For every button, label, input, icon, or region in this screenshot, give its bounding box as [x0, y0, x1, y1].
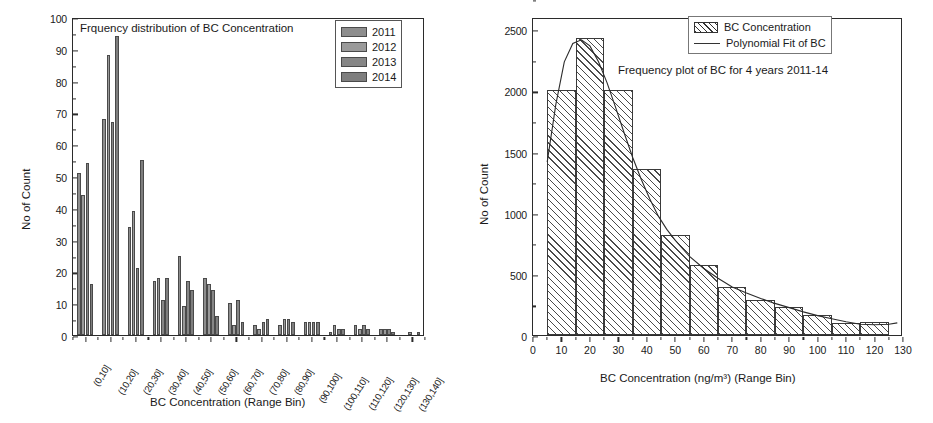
bar-2011: [178, 256, 182, 336]
x-tick-mark-minor: [324, 337, 325, 340]
x-tick-mark-minor: [248, 337, 249, 340]
bar-2014: [115, 36, 119, 335]
x-tick-mark: [789, 337, 790, 342]
bar-2014: [90, 284, 94, 335]
y-tick-label: 80: [56, 77, 73, 89]
y-tick-mark-minor: [73, 98, 76, 99]
bar-2013: [287, 319, 291, 335]
y-tick-mark-minor: [73, 162, 76, 163]
y-tick-label: 100: [50, 13, 73, 25]
x-tick-label: 10: [556, 344, 568, 356]
x-tick-mark-minor: [198, 337, 199, 340]
y-tick-label: 90: [56, 45, 73, 57]
legend-swatch-icon: [341, 27, 367, 37]
bar-2013: [236, 300, 240, 335]
x-tick-label: (60,70]: [241, 367, 265, 396]
x-tick-mark: [135, 337, 136, 342]
x-tick-mark: [311, 337, 312, 342]
legend-swatch-icon: [341, 42, 367, 52]
legend-item: Polynomial Fit of BC: [694, 35, 826, 51]
x-tick-mark: [561, 337, 562, 342]
x-tick-mark: [110, 337, 111, 342]
left-chart-panel: 0102030405060708090100(0,10](10,20](20,3…: [0, 0, 470, 423]
legend-swatch-icon: [341, 57, 367, 67]
y-tick-label: 30: [56, 236, 73, 248]
x-tick-label: (40,50]: [190, 367, 214, 396]
x-tick-label: 20: [584, 344, 596, 356]
x-tick-mark: [646, 337, 647, 342]
bar-2013: [161, 300, 165, 335]
bar-2014: [140, 160, 144, 335]
x-tick-mark-minor: [632, 337, 633, 340]
bar-2013: [387, 329, 391, 335]
x-tick-mark-minor: [803, 337, 804, 340]
y-tick-mark: [73, 82, 78, 83]
right-chart-panel: 0500100015002000250001020304050607080901…: [470, 0, 933, 423]
y-tick-label: 1500: [504, 148, 533, 160]
bar-2011: [128, 227, 132, 335]
y-tick-mark-minor: [73, 225, 76, 226]
x-tick-mark-minor: [123, 337, 124, 340]
right-chart-annotation: Frequency plot of BC for 4 years 2011-14: [618, 64, 828, 76]
x-tick-label: 90: [783, 344, 795, 356]
legend-label: 2011: [372, 26, 396, 38]
bar-2014: [341, 329, 345, 335]
left-chart-title: Frquency distribution of BC Concentratio…: [80, 22, 294, 34]
x-tick-label: 110: [838, 344, 855, 356]
x-tick-mark: [186, 337, 187, 342]
bar-2013: [86, 163, 90, 335]
bar-2012: [408, 332, 412, 335]
y-tick-mark: [73, 146, 78, 147]
x-tick-label: (130,140]: [416, 376, 445, 414]
y-tick-label: 500: [510, 270, 533, 282]
figure-container: 0102030405060708090100(0,10](10,20](20,3…: [0, 0, 933, 423]
legend-label: 2012: [372, 41, 396, 53]
y-tick-label: 60: [56, 140, 73, 152]
bar-2014: [165, 278, 169, 335]
x-tick-mark: [286, 337, 287, 342]
x-tick-label: 70: [726, 344, 738, 356]
legend-item-2013: 2013: [341, 54, 396, 69]
bar-2013: [136, 268, 140, 335]
x-tick-mark: [261, 337, 262, 342]
bar-2011: [354, 325, 358, 335]
x-tick-mark: [675, 337, 676, 342]
x-tick-mark-minor: [349, 337, 350, 340]
bar-2012: [308, 322, 312, 335]
x-tick-label: (90,100]: [316, 372, 343, 405]
y-tick-mark: [73, 50, 78, 51]
x-tick-mark-minor: [173, 337, 174, 340]
bar-2013: [312, 322, 316, 335]
y-tick-label: 0: [521, 331, 533, 343]
legend-label: Polynomial Fit of BC: [726, 37, 826, 49]
bar-2012: [383, 329, 387, 335]
x-tick-label: (0,10]: [90, 363, 111, 388]
x-tick-mark-minor: [399, 337, 400, 340]
right-legend: BC ConcentrationPolynomial Fit of BC: [688, 16, 832, 54]
left-y-axis-label: No of Count: [20, 169, 32, 230]
x-tick-label: (20,30]: [140, 367, 164, 396]
x-tick-mark-minor: [374, 337, 375, 340]
x-tick-mark: [902, 337, 903, 342]
bar-2012: [358, 329, 362, 335]
bar-2014: [417, 332, 421, 335]
x-tick-mark: [760, 337, 761, 342]
x-tick-mark: [85, 337, 86, 342]
x-tick-mark: [387, 337, 388, 342]
legend-label: 2013: [372, 56, 396, 68]
bar-2012: [81, 195, 85, 335]
bar-2014: [366, 329, 370, 335]
y-tick-mark-minor: [73, 257, 76, 258]
x-tick-mark-minor: [774, 337, 775, 340]
x-tick-mark: [336, 337, 337, 342]
bar-2011: [102, 119, 106, 335]
x-tick-mark-minor: [860, 337, 861, 340]
x-tick-mark-minor: [689, 337, 690, 340]
bar-2011: [304, 322, 308, 335]
x-tick-mark: [874, 337, 875, 342]
x-tick-label: 40: [641, 344, 653, 356]
bar-2012: [333, 325, 337, 335]
bar-2012: [182, 306, 186, 335]
legend-item-2012: 2012: [341, 39, 396, 54]
bar-2014: [316, 322, 320, 335]
